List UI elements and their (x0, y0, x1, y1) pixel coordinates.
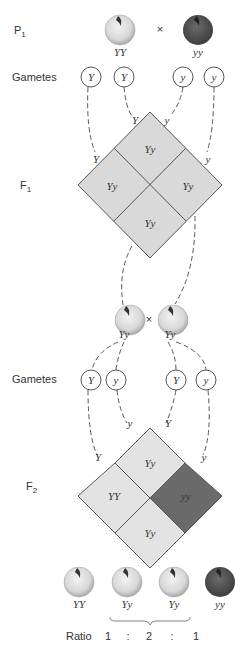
svg-text:y: y (201, 451, 207, 463)
f1-generation-label: F1 (20, 179, 32, 194)
p1-seed-green (183, 15, 213, 45)
svg-text:Y: Y (95, 451, 103, 463)
svg-text:P1: P1 (14, 24, 26, 39)
f1-cross-symbol: × (146, 313, 152, 325)
svg-text:Yy: Yy (145, 217, 156, 229)
svg-text:2: 2 (146, 630, 152, 642)
offspring-genotype-1: YY (73, 598, 87, 610)
p1-gametes: Y Y y y (81, 67, 224, 87)
svg-text:Yy: Yy (145, 143, 156, 155)
p1-seed-yellow (105, 15, 135, 45)
svg-text:1: 1 (193, 630, 199, 642)
gametes-label-1: Gametes (12, 71, 57, 83)
svg-text:Yy: Yy (183, 180, 194, 192)
svg-text:y: y (164, 114, 170, 126)
svg-text:Ratio: Ratio (66, 630, 92, 642)
offspring-genotype-3: Yy (169, 598, 180, 610)
p1-generation-label: P1 (14, 24, 26, 39)
p1-cross-symbol: × (157, 23, 163, 35)
svg-text::: : (126, 630, 129, 642)
p1-genotype-green: yy (192, 46, 203, 58)
f2-offspring-seeds (64, 567, 235, 597)
f2-cell-bottom: Yy (145, 527, 156, 539)
gametes-label-2: Gametes (12, 373, 57, 385)
f2-generation-label: F2 (26, 480, 38, 495)
offspring-genotype-4: yy (214, 598, 225, 610)
f1-gamete-paths-top (92, 342, 206, 370)
svg-text:1: 1 (105, 630, 111, 642)
monohybrid-cross-diagram: P1 × YY yy Gametes Y Y y y Yy Yy Yy Yy (0, 0, 242, 647)
heterozygote-brace (110, 617, 190, 625)
f1-punnett-square: Yy Yy Yy Yy (78, 112, 222, 258)
svg-text:F1: F1 (20, 179, 32, 194)
f2-cell-top: Yy (145, 457, 156, 469)
svg-text:Yy: Yy (107, 180, 118, 192)
f2-cell-left: YY (108, 490, 122, 502)
f1-gametes: Y y Y y (81, 370, 216, 390)
svg-text:Y: Y (165, 417, 173, 429)
svg-text::: : (170, 630, 173, 642)
svg-text:y: y (211, 71, 217, 83)
f1-genotype-left: Yy (119, 328, 130, 340)
svg-text:y: y (127, 417, 133, 429)
svg-text:F2: F2 (26, 480, 38, 495)
svg-text:y: y (205, 153, 211, 165)
f2-cell-right: yy (180, 490, 191, 502)
svg-text:y: y (180, 71, 186, 83)
offspring-genotype-2: Yy (122, 598, 133, 610)
svg-text:y: y (203, 374, 209, 386)
f2-punnett-square: Yy YY yy Yy (78, 428, 222, 568)
f1-genotype-right: Yy (165, 328, 176, 340)
p1-genotype-yellow: YY (114, 46, 128, 58)
svg-text:y: y (113, 374, 119, 386)
phenotype-ratio: Ratio 1 : 2 : 1 (66, 630, 199, 642)
